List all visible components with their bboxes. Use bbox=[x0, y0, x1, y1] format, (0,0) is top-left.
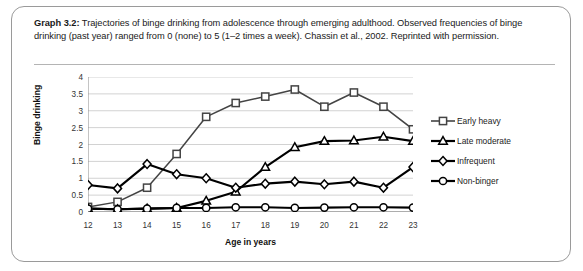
data-point-diamond bbox=[439, 157, 447, 166]
data-point-circle bbox=[291, 204, 298, 211]
y-axis-tick-label: 2.5 bbox=[72, 123, 83, 132]
data-point-diamond bbox=[261, 179, 269, 188]
data-point-triangle bbox=[291, 143, 300, 151]
data-point-diamond bbox=[320, 180, 328, 189]
data-point-square bbox=[321, 103, 328, 110]
y-axis-tick-label: 0 bbox=[78, 208, 83, 217]
data-point-square bbox=[291, 86, 298, 93]
series-line-circle bbox=[88, 207, 413, 209]
x-axis-tick-label: 12 bbox=[83, 221, 92, 230]
legend-item-triangle[interactable]: Late moderate bbox=[430, 131, 558, 151]
plot-area: 00.511.522.533.5412131415161718192021222… bbox=[88, 77, 413, 212]
caption-label: Graph 3.2: bbox=[34, 18, 79, 28]
y-axis-tick-label: 1.5 bbox=[72, 157, 83, 166]
y-axis-tick-label: 1 bbox=[78, 174, 83, 183]
chart: Binge drinking 00.511.522.533.5412131415… bbox=[30, 69, 558, 255]
x-axis-tick-label: 20 bbox=[320, 221, 329, 230]
data-point-square bbox=[380, 103, 387, 110]
legend-label: Non-binger bbox=[457, 176, 498, 186]
legend-swatch-diamond-icon bbox=[430, 154, 456, 168]
x-axis-tick-label: 19 bbox=[290, 221, 299, 230]
data-point-circle bbox=[173, 204, 180, 211]
data-point-square bbox=[173, 150, 180, 157]
figure-caption: Graph 3.2: Trajectories of binge drinkin… bbox=[34, 17, 555, 43]
legend-label: Infrequent bbox=[457, 156, 495, 166]
y-axis-tick-label: 3 bbox=[78, 106, 83, 115]
data-point-circle bbox=[350, 204, 357, 211]
caption-divider bbox=[34, 64, 555, 65]
legend-label: Late moderate bbox=[457, 136, 511, 146]
data-point-circle bbox=[409, 204, 413, 211]
data-point-square bbox=[439, 117, 446, 124]
legend-label: Early heavy bbox=[457, 116, 501, 126]
series-line-diamond bbox=[88, 164, 413, 188]
data-point-diamond bbox=[202, 174, 210, 183]
data-point-circle bbox=[380, 204, 387, 211]
data-point-circle bbox=[439, 177, 446, 184]
data-point-square bbox=[232, 99, 239, 106]
y-axis-label: Binge drinking bbox=[32, 85, 42, 145]
x-axis-label: Age in years bbox=[88, 237, 413, 247]
caption-text: Trajectories of binge drinking from adol… bbox=[34, 18, 522, 41]
data-point-square bbox=[350, 89, 357, 96]
y-axis-tick-label: 3.5 bbox=[72, 89, 83, 98]
y-axis-tick-label: 2 bbox=[78, 140, 83, 149]
legend-item-circle[interactable]: Non-binger bbox=[430, 171, 558, 191]
legend-swatch-circle-icon bbox=[430, 174, 456, 188]
legend-swatch-square-icon bbox=[430, 114, 456, 128]
data-point-circle bbox=[232, 204, 239, 211]
legend-swatch-triangle-icon bbox=[430, 134, 456, 148]
data-point-diamond bbox=[173, 170, 181, 179]
data-point-circle bbox=[203, 204, 210, 211]
x-axis-tick-label: 22 bbox=[379, 221, 388, 230]
data-point-circle bbox=[88, 205, 92, 212]
data-point-square bbox=[143, 184, 150, 191]
data-point-circle bbox=[143, 205, 150, 212]
x-axis-tick-label: 23 bbox=[408, 221, 417, 230]
data-point-triangle bbox=[320, 137, 329, 145]
x-axis-tick-label: 13 bbox=[113, 221, 122, 230]
data-point-circle bbox=[262, 204, 269, 211]
x-axis-tick-label: 17 bbox=[231, 221, 240, 230]
data-point-circle bbox=[321, 204, 328, 211]
plot-svg bbox=[88, 77, 413, 212]
x-axis-tick-label: 15 bbox=[172, 221, 181, 230]
x-axis-tick-label: 14 bbox=[143, 221, 152, 230]
data-point-square bbox=[262, 93, 269, 100]
x-axis-tick-label: 18 bbox=[261, 221, 270, 230]
data-point-triangle bbox=[379, 132, 388, 140]
x-axis-tick-label: 21 bbox=[349, 221, 358, 230]
legend-item-square[interactable]: Early heavy bbox=[430, 111, 558, 131]
figure-container: Graph 3.2: Trajectories of binge drinkin… bbox=[11, 6, 571, 262]
data-point-circle bbox=[114, 206, 121, 212]
series-line-square bbox=[88, 89, 413, 206]
x-axis-tick-label: 16 bbox=[202, 221, 211, 230]
data-point-diamond bbox=[88, 181, 92, 190]
data-point-triangle bbox=[350, 136, 359, 144]
chart-legend: Early heavyLate moderateInfrequentNon-bi… bbox=[430, 111, 558, 191]
data-point-triangle bbox=[202, 196, 211, 204]
y-axis-tick-label: 0.5 bbox=[72, 191, 83, 200]
data-point-triangle bbox=[439, 137, 448, 145]
data-point-square bbox=[409, 126, 413, 133]
legend-item-diamond[interactable]: Infrequent bbox=[430, 151, 558, 171]
data-point-square bbox=[203, 113, 210, 120]
y-axis-tick-label: 4 bbox=[78, 73, 83, 82]
